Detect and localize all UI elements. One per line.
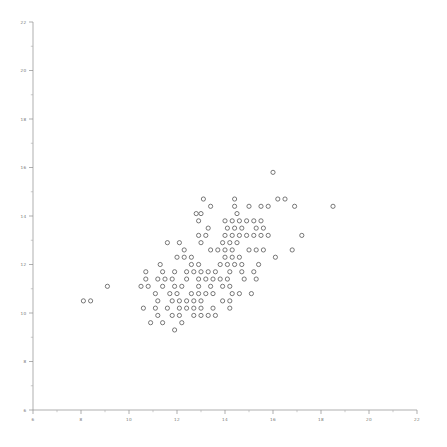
x-tick-label: 18: [318, 417, 324, 422]
y-tick-label: 10: [20, 311, 26, 316]
y-tick-label: 6: [23, 408, 26, 413]
x-tick-label: 12: [174, 417, 180, 422]
x-tick-label: 16: [270, 417, 276, 422]
x-tick-label: 6: [31, 417, 34, 422]
x-tick-label: 10: [126, 417, 132, 422]
chart-canvas: 6810121416182022 6810121416182022: [0, 0, 447, 447]
x-tick-label: 8: [79, 417, 82, 422]
y-tick-label: 8: [23, 359, 26, 364]
scatter-plot-figure: 6810121416182022 6810121416182022: [0, 0, 447, 447]
y-tick-label: 18: [20, 117, 26, 122]
y-tick-label: 20: [20, 68, 26, 73]
y-tick-label: 14: [20, 214, 26, 219]
y-tick-label: 12: [20, 262, 26, 267]
plot-background: [0, 0, 447, 447]
x-tick-label: 20: [366, 417, 372, 422]
x-tick-label: 22: [414, 417, 420, 422]
y-tick-label: 16: [20, 165, 26, 170]
x-tick-label: 14: [222, 417, 228, 422]
y-tick-label: 22: [20, 20, 26, 25]
